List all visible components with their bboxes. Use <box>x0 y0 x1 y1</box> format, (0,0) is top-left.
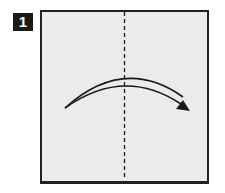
step-number-badge: 1 <box>13 13 33 31</box>
paper-square <box>40 10 209 184</box>
